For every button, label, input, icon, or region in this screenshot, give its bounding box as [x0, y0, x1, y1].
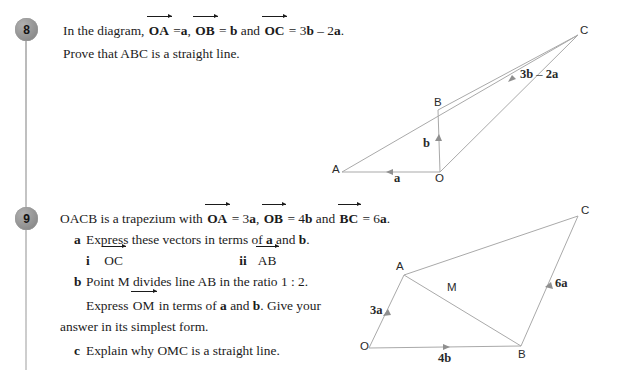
part-b-text: Point M divides line AB in the ratio 1 :… — [86, 274, 308, 289]
arrowhead-b — [435, 134, 442, 141]
point-label-O: O — [360, 340, 369, 352]
part-b-express: Express — [86, 298, 128, 313]
segment-AC — [404, 216, 578, 275]
part-b-label: b — [74, 271, 86, 292]
part-a-end: . — [306, 232, 309, 247]
question-9-part-a-items: i OC ii AB — [86, 250, 360, 271]
vector-om: OM — [132, 295, 156, 316]
bc-b: b — [526, 67, 533, 81]
part-a-label: a — [74, 229, 86, 250]
part-c-text: Explain why OMC is a straight line. — [86, 343, 280, 358]
q9-comma: , — [256, 211, 259, 226]
vector-oa: OA — [148, 20, 170, 41]
edge-label-6a: 6a — [555, 276, 568, 291]
q8-oc-val-b: b — [306, 23, 313, 38]
oa-vec: a — [376, 303, 382, 317]
point-label-A: A — [396, 260, 404, 272]
arrowheads-diagram-9 — [383, 282, 553, 350]
roman-ii: ii — [239, 250, 253, 271]
question-9-part-c: cExplain why OMC is a straight line. — [74, 340, 360, 361]
point-label-M: M — [447, 281, 457, 293]
q8-intro: In the diagram, — [63, 23, 144, 38]
bc-minus: – — [536, 67, 542, 81]
ob-vec: b — [444, 351, 451, 365]
q8-eq-1: = — [173, 23, 181, 38]
point-label-B: B — [434, 96, 442, 108]
q8-comma-1: , — [188, 23, 191, 38]
item-ii-group: ii AB — [239, 253, 277, 268]
edge-label-b: b — [423, 136, 430, 151]
edge-label-3b-minus-2a: 3b – 2a — [520, 67, 558, 82]
diagram-9-svg — [330, 198, 620, 392]
q9-ob-vec: b — [305, 211, 312, 226]
vector-diagram-question-8: A O B C a b 3b – 2a — [330, 8, 620, 193]
q9-intro: OACB is a trapezium with — [60, 211, 203, 226]
vector-diagram-question-9: O A B C M 3a 4b 6a — [330, 198, 620, 392]
question-rail-line — [25, 30, 27, 370]
q8-b: b — [230, 23, 237, 38]
q9-ob-num: = 4 — [287, 211, 305, 226]
bc-a: a — [552, 67, 558, 81]
arrowhead-a — [386, 169, 393, 175]
q8-and: and — [241, 23, 260, 38]
question-9-part-b-line2: Express OM in terms of a and b. Give you… — [86, 295, 360, 316]
point-label-C: C — [580, 24, 588, 36]
q9-oa-vec: a — [249, 211, 256, 226]
worksheet-page: 8 9 In the diagram, OA =a, OB = b and OC… — [0, 0, 620, 392]
vector-oc: OC — [263, 20, 285, 41]
part-b-vec-a: a — [220, 298, 227, 313]
segment-BC — [521, 216, 578, 346]
question-number-badge-8: 8 — [15, 18, 38, 41]
vector-ob: OB — [194, 20, 215, 41]
edge-label-4b: 4b — [438, 351, 451, 366]
diagram-8-svg — [330, 8, 620, 193]
q8-oc-val-1: = 3 — [289, 23, 307, 38]
part-a-text-pre: Express these vectors in terms of — [86, 232, 263, 247]
question-9-line-1: OACB is a trapezium with OA = 3a, OB = 4… — [60, 208, 360, 229]
arrowhead-4b — [443, 344, 450, 350]
q9-oa-num: = 3 — [232, 211, 250, 226]
point-label-O: O — [435, 172, 444, 184]
arrowheads-diagram-8 — [386, 75, 516, 175]
segment-AB — [404, 275, 521, 346]
vector-ab-item: AB — [257, 250, 278, 271]
q8-a: a — [181, 23, 188, 38]
part-b-tail: . Give your — [260, 298, 321, 313]
point-label-A: A — [332, 163, 340, 175]
question-9-part-b-line3: answer in its simplest form. — [60, 316, 360, 337]
part-b-line3: answer in its simplest form. — [60, 319, 208, 334]
part-c-label: c — [74, 340, 86, 361]
question-9-part-b: bPoint M divides line AB in the ratio 1 … — [74, 271, 360, 292]
roman-i: i — [86, 250, 100, 271]
bc-vec: a — [561, 276, 567, 290]
item-i-group: i OC — [86, 250, 236, 271]
part-a-vec-a: a — [266, 232, 273, 247]
edge-label-3a: 3a — [370, 303, 383, 318]
q8-prove-text: Prove that ABC is a straight line. — [63, 46, 240, 61]
point-label-C: C — [581, 204, 589, 216]
edge-label-a: a — [394, 171, 400, 186]
vector-oa: OA — [206, 208, 228, 229]
part-b-mid: in terms of — [159, 298, 217, 313]
vector-oc-item: OC — [103, 250, 124, 271]
question-number-badge-9: 9 — [15, 207, 38, 230]
q8-eq-2: = — [219, 23, 227, 38]
point-label-B: B — [518, 348, 526, 360]
part-b-and: and — [230, 298, 249, 313]
question-9-text: OACB is a trapezium with OA = 3a, OB = 4… — [60, 208, 360, 361]
vector-ob: OB — [263, 208, 284, 229]
arrowhead-bc — [508, 75, 516, 82]
